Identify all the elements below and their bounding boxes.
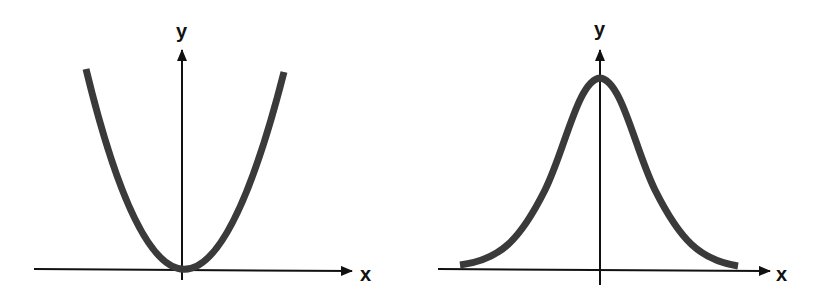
diagram-canvas: y x y x <box>0 0 819 295</box>
y-axis-label: y <box>176 20 188 42</box>
x-axis-label: x <box>360 263 371 285</box>
bell-curve-diagram: y x <box>438 18 787 285</box>
x-axis <box>438 269 770 271</box>
parabola-diagram: y x <box>34 20 371 285</box>
y-axis-label: y <box>594 18 606 40</box>
x-axis-label: x <box>776 263 787 285</box>
parabola-curve <box>86 69 284 269</box>
